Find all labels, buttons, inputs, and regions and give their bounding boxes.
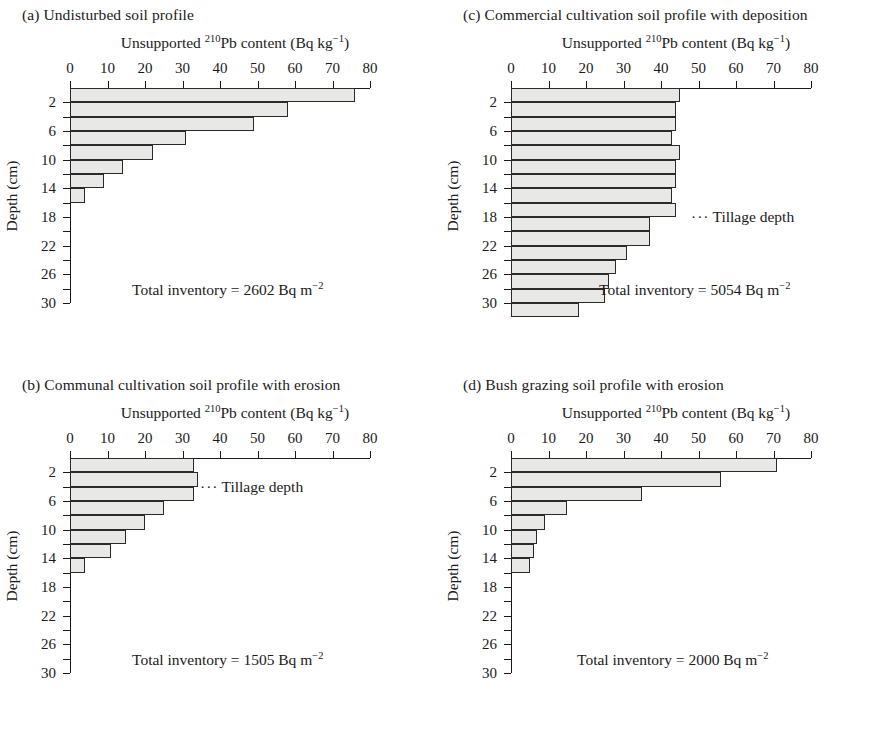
y-axis-tick-label: 30 bbox=[41, 295, 56, 312]
x-axis-tick bbox=[586, 81, 587, 88]
y-axis-tick-label: 10 bbox=[41, 151, 56, 168]
y-axis-tick-label: 6 bbox=[490, 493, 498, 510]
x-axis-tick-label: 20 bbox=[138, 60, 153, 77]
x-axis-tick bbox=[295, 451, 296, 458]
panel-d-plot: Depth (cm) 01020304050607080 26101418222… bbox=[511, 458, 811, 673]
bar bbox=[70, 145, 153, 159]
x-axis-tick bbox=[145, 451, 146, 458]
x-axis-tick bbox=[258, 451, 259, 458]
y-axis-tick bbox=[63, 530, 70, 531]
axis-title-isotope: 210 bbox=[646, 403, 662, 414]
x-axis-tick-label: 60 bbox=[729, 430, 744, 447]
y-axis-tick-label: 26 bbox=[41, 636, 56, 653]
panel-c-caption: (c) Commercial cultivation soil profile … bbox=[463, 6, 808, 24]
y-axis-tick-label: 14 bbox=[41, 180, 56, 197]
x-axis-tick bbox=[661, 81, 662, 88]
axis-title-exp: −1 bbox=[333, 403, 344, 414]
y-axis-tick bbox=[504, 274, 511, 275]
axis-title-isotope: 210 bbox=[646, 33, 662, 44]
panel-a: (a) Undisturbed soil profile Unsupported… bbox=[0, 0, 441, 367]
x-axis-tick-label: 60 bbox=[729, 60, 744, 77]
y-axis-tick bbox=[504, 630, 511, 631]
y-axis-tick-label: 30 bbox=[482, 665, 497, 682]
bar bbox=[511, 558, 530, 572]
bar bbox=[511, 88, 680, 102]
y-axis-tick bbox=[504, 303, 511, 304]
x-axis-tick-label: 70 bbox=[766, 430, 781, 447]
panel-b-plot: Depth (cm) 01020304050607080 26101418222… bbox=[70, 458, 370, 673]
y-axis-tick bbox=[504, 659, 511, 660]
y-axis-tick-label: 6 bbox=[49, 493, 57, 510]
x-axis-tick-label: 40 bbox=[213, 60, 228, 77]
y-axis-tick bbox=[504, 673, 511, 674]
y-axis-tick bbox=[504, 573, 511, 574]
panel-b-caption: (b) Communal cultivation soil profile wi… bbox=[22, 376, 340, 394]
tillage-text: Tillage depth bbox=[713, 208, 795, 225]
x-axis-tick bbox=[220, 451, 221, 458]
panel-a-plot: Depth (cm) 01020304050607080 26101418222… bbox=[70, 88, 370, 303]
y-axis-tick bbox=[504, 616, 511, 617]
bar bbox=[511, 174, 676, 188]
x-axis-tick-label: 0 bbox=[66, 60, 74, 77]
axis-title-suffix: ) bbox=[344, 34, 349, 51]
x-axis-tick bbox=[549, 81, 550, 88]
y-axis-tick bbox=[63, 174, 70, 175]
y-axis-tick bbox=[63, 231, 70, 232]
x-axis-tick bbox=[295, 81, 296, 88]
x-axis-tick-label: 30 bbox=[616, 60, 631, 77]
bar bbox=[511, 487, 642, 501]
axis-title-mid: Pb content (Bq kg bbox=[661, 404, 773, 421]
inventory-unit-exp: −2 bbox=[312, 650, 323, 661]
x-axis-tick-label: 30 bbox=[616, 430, 631, 447]
panel-b: (b) Communal cultivation soil profile wi… bbox=[0, 370, 441, 737]
panel-a-axis-title: Unsupported 210Pb content (Bq kg−1) bbox=[70, 33, 400, 52]
y-axis-tick bbox=[63, 188, 70, 189]
y-axis-tick bbox=[504, 160, 511, 161]
x-axis-tick-label: 20 bbox=[579, 60, 594, 77]
bar bbox=[511, 303, 579, 317]
x-axis-tick-label: 80 bbox=[363, 60, 378, 77]
bar bbox=[511, 289, 605, 303]
bar bbox=[511, 188, 672, 202]
x-axis-tick-label: 40 bbox=[654, 60, 669, 77]
x-axis-tick bbox=[774, 451, 775, 458]
y-axis-tick bbox=[504, 246, 511, 247]
y-axis-tick bbox=[63, 544, 70, 545]
bar bbox=[511, 203, 676, 217]
y-axis-tick bbox=[504, 289, 511, 290]
x-axis-tick bbox=[370, 81, 371, 88]
y-axis-tick bbox=[63, 587, 70, 588]
x-axis-tick bbox=[183, 81, 184, 88]
bar bbox=[511, 217, 650, 231]
y-axis-tick bbox=[63, 644, 70, 645]
axis-title-prefix: Unsupported bbox=[562, 404, 646, 421]
x-axis-tick bbox=[549, 451, 550, 458]
y-axis-tick bbox=[63, 145, 70, 146]
y-axis-tick-label: 14 bbox=[482, 550, 497, 567]
bar bbox=[70, 472, 198, 486]
y-axis-tick-label: 2 bbox=[490, 464, 498, 481]
panel-b-inventory: Total inventory = 1505 Bq m−2 bbox=[132, 650, 323, 669]
axis-title-prefix: Unsupported bbox=[121, 404, 205, 421]
axis-title-mid: Pb content (Bq kg bbox=[220, 34, 332, 51]
x-axis-tick-label: 60 bbox=[288, 60, 303, 77]
panel-c-axis-title: Unsupported 210Pb content (Bq kg−1) bbox=[511, 33, 841, 52]
y-axis-tick bbox=[63, 260, 70, 261]
y-axis-tick bbox=[504, 188, 511, 189]
x-axis-tick-label: 50 bbox=[691, 60, 706, 77]
x-axis-tick-label: 70 bbox=[325, 60, 340, 77]
inventory-unit: Bq m bbox=[719, 651, 757, 668]
panel-c-tillage-label: ···Tillage depth bbox=[691, 208, 794, 226]
x-axis-tick bbox=[220, 81, 221, 88]
y-axis-tick bbox=[504, 501, 511, 502]
y-axis-tick bbox=[63, 472, 70, 473]
inventory-unit-exp: −2 bbox=[757, 650, 768, 661]
y-axis-tick bbox=[63, 487, 70, 488]
x-axis-tick-label: 0 bbox=[507, 60, 515, 77]
y-axis-tick-label: 30 bbox=[41, 665, 56, 682]
inventory-prefix: Total inventory = bbox=[132, 281, 243, 298]
inventory-prefix: Total inventory = bbox=[132, 651, 243, 668]
x-axis-tick-label: 80 bbox=[363, 430, 378, 447]
y-axis-tick bbox=[504, 644, 511, 645]
y-axis-tick-label: 22 bbox=[482, 237, 497, 254]
